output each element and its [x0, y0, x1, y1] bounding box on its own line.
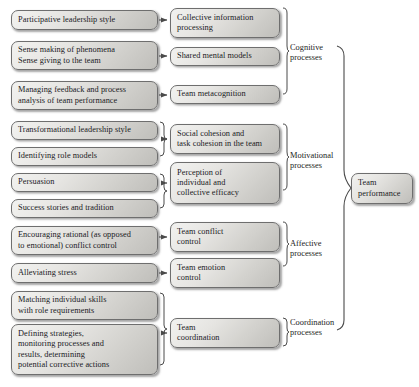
process-line: collective efficacy — [177, 188, 274, 198]
group-label-affective: Affective processes — [290, 239, 322, 260]
process-line: Social cohesion and — [177, 129, 274, 139]
brace-cognitive-group — [283, 8, 289, 94]
process-line: Collective information — [177, 13, 274, 23]
antecedent-line: to emotional) conflict control — [18, 241, 152, 251]
antecedent-line: Participative leadership style — [18, 15, 152, 25]
antecedent-box-transformational-leadership: Transformational leadership style — [11, 121, 158, 140]
outcome-brace-group — [337, 46, 351, 330]
antecedent-line: with role requirements — [18, 306, 152, 316]
antecedent-box-managing-feedback: Managing feedback and process analysis o… — [11, 81, 158, 110]
antecedent-line: results, determining — [18, 350, 152, 360]
antecedent-line: Sense making of phenomena — [18, 45, 152, 55]
process-box-team-metacognition: Team metacognition — [170, 85, 280, 104]
group-label-line: processes — [290, 328, 334, 338]
process-box-shared-mental-models: Shared mental models — [170, 47, 280, 66]
antecedent-line: Sense giving to the team — [18, 56, 152, 66]
arrow-group — [159, 20, 167, 333]
antecedent-box-defining-strategies: Defining strategies, monitoring processe… — [11, 324, 158, 375]
antecedent-line: Encouraging rational (as opposed — [18, 230, 152, 240]
antecedent-line: Transformational leadership style — [18, 125, 152, 135]
brace-transformational-identifying — [160, 122, 167, 156]
process-line: Perception of — [177, 168, 274, 178]
antecedent-box-participative-leadership: Participative leadership style — [11, 10, 158, 30]
group-label-line: Coordination — [290, 318, 334, 328]
process-box-team-coordination: Team coordination — [170, 318, 280, 348]
group-label-line: processes — [290, 161, 333, 171]
process-line: Team — [177, 323, 274, 333]
process-box-collective-information-processing: Collective information processing — [170, 8, 280, 38]
antecedent-box-matching-skills: Matching individual skills with role req… — [11, 291, 158, 320]
group-label-line: processes — [290, 53, 323, 63]
process-line: coordination — [177, 333, 274, 343]
outcome-box-team-performance: Team performance — [351, 173, 413, 204]
brace-team-performance — [337, 46, 351, 330]
antecedent-box-encouraging-rational: Encouraging rational (as opposed to emot… — [11, 226, 158, 255]
process-box-perception-of-efficacy: Perception of individual and collective … — [170, 162, 280, 204]
process-line: Team metacognition — [177, 89, 274, 99]
group-label-coordination: Coordination processes — [290, 318, 334, 339]
process-line: task cohesion in the team — [177, 139, 274, 149]
group-label-motivational: Motivational processes — [290, 151, 333, 172]
process-line: Team conflict — [177, 227, 274, 237]
antecedent-line: analysis of team performance — [18, 96, 152, 106]
process-box-social-task-cohesion: Social cohesion and task cohesion in the… — [170, 124, 280, 154]
process-line: control — [177, 237, 274, 247]
process-box-team-conflict-control: Team conflict control — [170, 222, 280, 252]
group-label-cognitive: Cognitive processes — [290, 43, 323, 64]
outcome-line: performance — [358, 189, 407, 199]
brace-affective-group — [283, 222, 289, 266]
antecedent-line: Persuasion — [18, 177, 152, 187]
process-line: Shared mental models — [177, 51, 274, 61]
process-line: processing — [177, 23, 274, 33]
brace-matching-defining — [160, 293, 167, 365]
outcome-line: Team — [358, 178, 407, 188]
process-group-brace-group — [283, 8, 289, 346]
left-brace-group — [160, 122, 167, 365]
group-label-line: Affective — [290, 239, 322, 249]
brace-coordination-group — [283, 318, 289, 346]
team-performance-diagram: Participative leadership style Sense mak… — [0, 0, 419, 387]
antecedent-line: Matching individual skills — [18, 295, 152, 305]
antecedent-line: monitoring processes and — [18, 339, 152, 349]
antecedent-line: Identifying role models — [18, 151, 152, 161]
process-line: Team emotion — [177, 263, 274, 273]
antecedent-line: Managing feedback and process — [18, 85, 152, 95]
antecedent-box-alleviating-stress: Alleviating stress — [11, 263, 158, 283]
antecedent-line: potential corrective actions — [18, 360, 152, 370]
antecedent-box-identifying-role-models: Identifying role models — [11, 147, 158, 166]
group-label-line: Motivational — [290, 151, 333, 161]
process-line: control — [177, 273, 274, 283]
group-label-line: processes — [290, 249, 322, 259]
antecedent-line: Alleviating stress — [18, 268, 152, 278]
antecedent-line: Defining strategies, — [18, 329, 152, 339]
antecedent-box-success-stories: Success stories and tradition — [11, 199, 158, 218]
process-box-team-emotion-control: Team emotion control — [170, 258, 280, 288]
process-line: individual and — [177, 178, 274, 188]
antecedent-box-sense-making: Sense making of phenomena Sense giving t… — [11, 41, 158, 70]
brace-persuasion-success — [160, 174, 167, 208]
antecedent-box-persuasion: Persuasion — [11, 173, 158, 192]
group-label-line: Cognitive — [290, 43, 323, 53]
antecedent-line: Success stories and tradition — [18, 203, 152, 213]
brace-motivational-group — [283, 124, 289, 190]
